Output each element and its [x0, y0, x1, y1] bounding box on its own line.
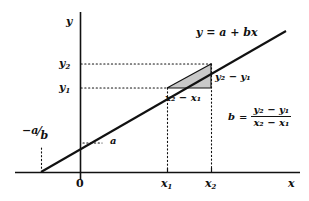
slope-formula-symbol: b	[228, 111, 235, 122]
line-graph-figure: y x 0 x1 x2 y2 y1 y = a + bx a −a⁄b y₂ −…	[0, 0, 309, 201]
slope-triangle-shape	[167, 64, 211, 88]
regression-line	[41, 31, 286, 172]
x-intercept-label: −a⁄b	[22, 124, 48, 139]
rise-label: y₂ − y₁	[215, 72, 251, 82]
origin-label: 0	[76, 178, 84, 189]
y-axis-label: y	[66, 16, 72, 27]
graph-canvas	[0, 0, 309, 201]
tick-label-y2: y2	[59, 58, 70, 69]
tick-label-x1: x1	[161, 178, 172, 189]
y-intercept-label: a	[110, 136, 116, 146]
x-axis-label: x	[288, 178, 295, 189]
tick-label-x2: x2	[205, 178, 216, 189]
slope-formula-equals: =	[239, 111, 247, 122]
x-intercept-denominator: b	[41, 129, 49, 142]
run-label: x₂ − x₁	[165, 93, 201, 103]
slope-formula: b = y₂ − y₁ x₂ − x₁	[228, 104, 291, 128]
slope-formula-fraction: y₂ − y₁ x₂ − x₁	[251, 104, 291, 128]
tick-label-y1: y1	[59, 82, 70, 93]
x-intercept-numerator: −a	[22, 124, 38, 137]
slope-formula-numerator: y₂ − y₁	[252, 104, 292, 116]
slope-formula-denominator: x₂ − x₁	[251, 117, 291, 129]
line-equation-label: y = a + bx	[196, 27, 258, 38]
